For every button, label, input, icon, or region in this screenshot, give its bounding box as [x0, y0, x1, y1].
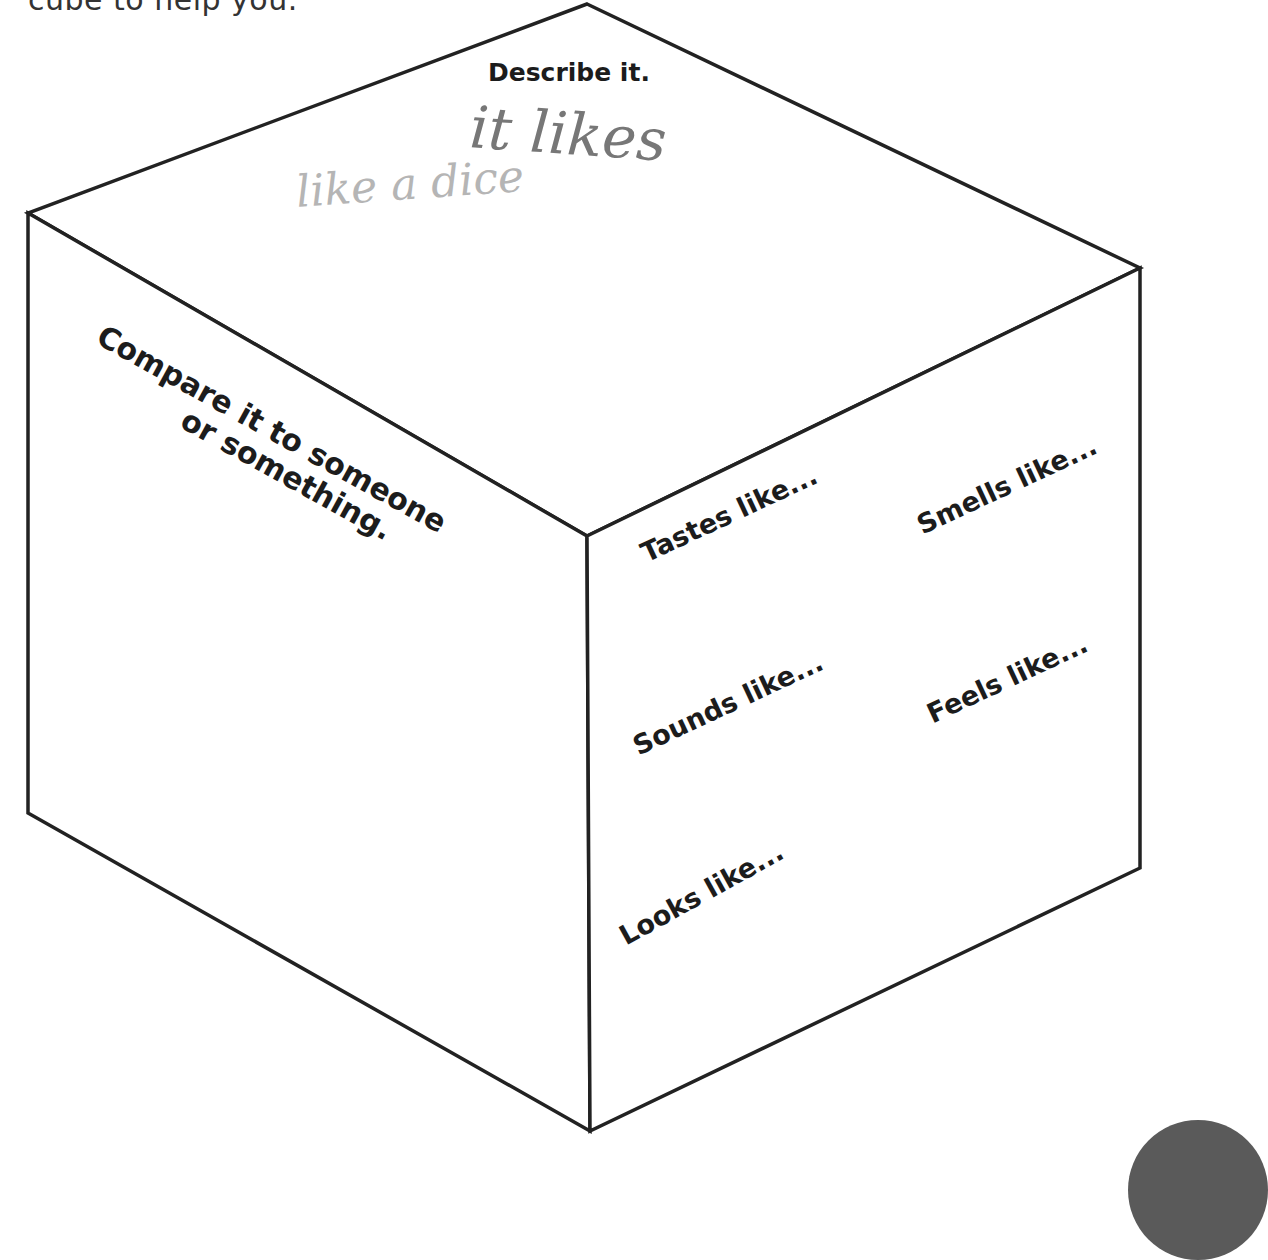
describe-prompt: Describe it. — [488, 58, 650, 87]
corner-decoration — [1128, 1120, 1268, 1260]
